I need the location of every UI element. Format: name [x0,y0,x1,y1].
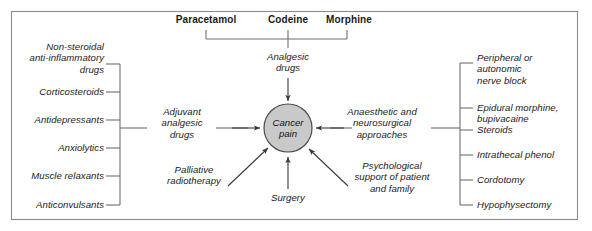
group-label-analgesic-drugs: Analgesic drugs [248,51,328,74]
group-label-adjuvant-analgesic-drugs: Adjuvant analgesic drugs [146,106,218,140]
diagram-canvas: Paracetamol Codeine Morphine Analgesic d… [0,0,592,231]
right-item-cordotomy: Cordotomy [477,174,587,185]
left-item-corticosteroids: Corticosteroids [4,86,104,97]
top-drug-paracetamol: Paracetamol [166,14,246,25]
branch-label-surgery: Surgery [256,192,320,203]
right-item-hypophysectomy: Hypophysectomy [477,199,589,210]
top-drug-codeine: Codeine [254,14,322,25]
left-item-antidepressants: Antidepressants [4,114,104,125]
top-bracket [206,30,347,48]
branch-label-psychological-support: Psychological support of patient and fam… [340,160,444,194]
left-item-muscle-relaxants: Muscle relaxants [4,170,104,181]
right-item-epidural-morphine: Epidural morphine, bupivacaine [477,102,589,125]
branch-label-palliative-radiotherapy: Palliative radiotherapy [152,164,236,187]
left-item-anticonvulsants: Anticonvulsants [4,199,104,210]
cancer-pain-label: Cancer pain [258,117,318,139]
right-item-steroids: Steroids [477,124,587,135]
left-item-anxiolytics: Anxiolytics [4,142,104,153]
right-item-nerve-block: Peripheral or autonomic nerve block [477,52,587,86]
group-label-anaesthetic-neurosurgical: Anaesthetic and neurosurgical approaches [330,106,434,140]
left-item-nsaids: Non-steroidal anti-inflammatory drugs [4,41,104,75]
right-item-intrathecal-phenol: Intrathecal phenol [477,149,587,160]
top-drug-morphine: Morphine [314,14,384,25]
